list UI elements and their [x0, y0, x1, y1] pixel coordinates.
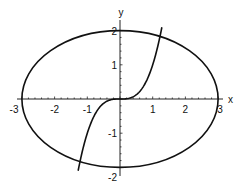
x-tick-label: -3: [10, 104, 19, 115]
x-tick-label: 1: [150, 104, 156, 115]
plot-area: -3-2-1123-2-112xy: [0, 0, 242, 189]
y-tick-label: -2: [108, 172, 117, 183]
y-axis-label: y: [119, 7, 124, 18]
x-tick-label: -1: [83, 104, 92, 115]
x-axis-label: x: [228, 94, 233, 105]
y-tick-label: -1: [108, 128, 117, 139]
y-tick-label: 1: [111, 60, 117, 71]
chart: -3-2-1123-2-112xy: [0, 0, 242, 189]
y-tick-label: 2: [111, 26, 117, 37]
labels: -3-2-1123-2-112xy: [10, 7, 233, 183]
x-tick-label: 2: [183, 104, 189, 115]
x-tick-label: -2: [50, 104, 59, 115]
x-tick-label: 3: [217, 104, 223, 115]
